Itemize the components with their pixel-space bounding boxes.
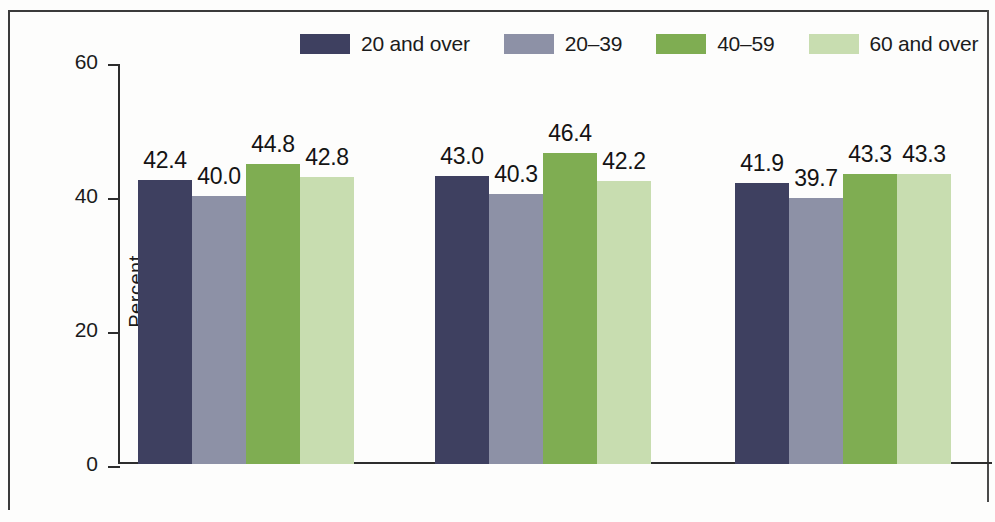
bar-rect[interactable] [543,153,597,464]
bar[interactable]: 40.0 [192,196,246,464]
chart-legend: 20 and over20–3940–5960 and over [300,31,978,57]
y-axis-tick-label: 0 [40,452,98,476]
legend-label: 20 and over [361,32,470,56]
bar[interactable]: 40.3 [489,194,543,464]
legend-label: 20–39 [565,32,622,56]
y-axis-tick-label: 40 [40,184,98,208]
bar-rect[interactable] [735,183,789,464]
bar[interactable]: 44.8 [246,164,300,464]
bar[interactable]: 41.9 [735,183,789,464]
legend-swatch-icon [504,34,554,54]
bar[interactable]: 42.4 [138,180,192,464]
bar-value-label: 46.4 [525,120,615,147]
bar-rect[interactable] [138,180,192,464]
legend-item-0[interactable]: 20 and over [300,32,470,56]
bar[interactable]: 46.4 [543,153,597,464]
y-axis-tick [108,64,120,66]
bar[interactable]: 42.8 [300,177,354,464]
legend-item-3[interactable]: 60 and over [809,32,979,56]
bar[interactable]: 42.2 [597,181,651,464]
bar-chart: 20 and over20–3940–5960 and over Percent… [0,0,995,522]
bar-rect[interactable] [192,196,246,464]
legend-label: 40–59 [717,32,774,56]
bar-rect[interactable] [843,174,897,464]
bar-value-label: 43.3 [879,141,969,168]
bar-rect[interactable] [897,174,951,464]
y-axis-tick-label: 20 [40,318,98,342]
bar-rect[interactable] [789,198,843,464]
plot-area: Percent 42.440.044.842.8Total43.040.346.… [118,62,992,464]
legend-swatch-icon [656,34,706,54]
bar-value-label: 42.8 [282,144,372,171]
legend-swatch-icon [300,34,350,54]
legend-label: 60 and over [870,32,979,56]
bar[interactable]: 43.3 [897,174,951,464]
y-axis-tick [108,466,120,468]
bar-rect[interactable] [300,177,354,464]
bar-rect[interactable] [489,194,543,464]
legend-item-1[interactable]: 20–39 [504,32,622,56]
y-axis-tick [108,332,120,334]
bar-rect[interactable] [246,164,300,464]
legend-item-2[interactable]: 40–59 [656,32,774,56]
bar-value-label: 42.2 [579,148,669,175]
bar-rect[interactable] [435,176,489,464]
bar-rect[interactable] [597,181,651,464]
legend-swatch-icon [809,34,859,54]
bar[interactable]: 43.0 [435,176,489,464]
bar[interactable]: 43.3 [843,174,897,464]
y-axis-tick [108,198,120,200]
bar[interactable]: 39.7 [789,198,843,464]
y-axis-tick-label: 60 [40,50,98,74]
